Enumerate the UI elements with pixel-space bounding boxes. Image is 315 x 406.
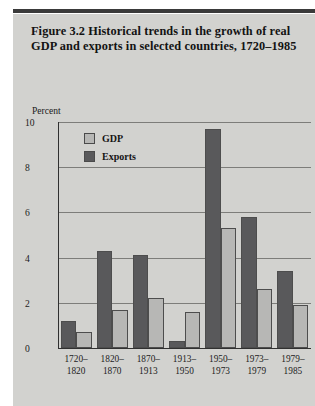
y-tick-label: 10 (25, 117, 47, 128)
y-tick-label: 8 (25, 162, 47, 173)
gridline (58, 122, 311, 123)
x-tick-label: 1820–1870 (94, 354, 130, 377)
bar-exports (133, 255, 149, 348)
legend-label: Exports (102, 151, 136, 162)
legend-swatch-icon (84, 133, 95, 144)
bar-gdp (148, 298, 164, 348)
x-tick-label: 1720–1820 (58, 354, 94, 377)
y-axis-line (58, 122, 59, 348)
bar-exports (277, 271, 293, 348)
gridline (58, 167, 311, 168)
bar-exports (61, 321, 77, 348)
legend-label: GDP (102, 133, 123, 144)
x-tick-label: 1973–1979 (239, 354, 275, 377)
bar-gdp (221, 228, 237, 348)
x-tick-label: 1950–1973 (203, 354, 239, 377)
legend-item: Exports (84, 149, 136, 164)
y-tick-label: 4 (25, 252, 47, 263)
bar-exports (241, 217, 257, 348)
y-tick-label: 2 (25, 297, 47, 308)
chart-legend: GDPExports (84, 131, 136, 167)
y-tick-label: 6 (25, 207, 47, 218)
bar-gdp (76, 332, 92, 348)
gridline (58, 212, 311, 213)
bar-gdp (257, 289, 273, 348)
figure-panel: Figure 3.2 Historical trends in the grow… (13, 14, 315, 406)
bar-gdp (112, 310, 128, 348)
legend-item: GDP (84, 131, 136, 146)
bar-exports (169, 341, 185, 348)
y-axis-title: Percent (32, 105, 61, 116)
x-axis-line (58, 348, 311, 349)
figure-container: Figure 3.2 Historical trends in the grow… (0, 0, 315, 406)
bar-exports (97, 251, 113, 348)
x-tick-label: 1913–1950 (166, 354, 202, 377)
x-tick-label: 1870–1913 (130, 354, 166, 377)
title-rule (13, 9, 315, 13)
bar-gdp (293, 305, 309, 348)
y-tick-label: 0 (25, 343, 47, 354)
legend-swatch-icon (84, 151, 95, 162)
chart-plot-area: Percent 0246810 1720–18201820–18701870–1… (13, 14, 315, 406)
bar-gdp (185, 312, 201, 348)
x-tick-label: 1979–1985 (275, 354, 311, 377)
bar-exports (205, 129, 221, 348)
